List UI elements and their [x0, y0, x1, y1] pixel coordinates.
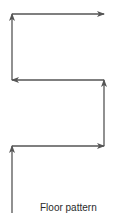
- diagram-caption: Floor pattern: [40, 202, 97, 213]
- floor-pattern-diagram: [0, 0, 117, 224]
